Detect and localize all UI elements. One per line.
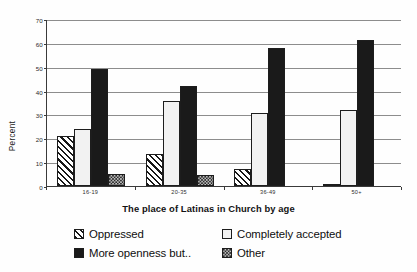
x-axis-tick-labels: 16-1920-3536-4950+ [46, 189, 401, 201]
legend-item: Oppressed [74, 228, 222, 240]
legend-swatch [222, 248, 232, 258]
y-axis-tick-label: 10 [36, 160, 43, 167]
bar [323, 184, 340, 186]
bar [357, 40, 374, 186]
legend-item: Other [222, 247, 342, 259]
y-axis-tick-label: 60 [36, 40, 43, 47]
bar [108, 174, 125, 186]
plot-area: 010203040506070 [46, 20, 401, 187]
x-axis-tick-label: 20-35 [135, 189, 224, 201]
y-axis-tick-label: 0 [39, 184, 43, 191]
legend-label: Oppressed [89, 228, 144, 240]
bar [340, 110, 357, 186]
legend-item: Completely accepted [222, 228, 342, 240]
bar [268, 48, 285, 186]
bar [74, 129, 91, 186]
legend-label: Completely accepted [237, 228, 341, 240]
y-axis-tick-label: 50 [36, 64, 43, 71]
bar-group [224, 20, 313, 186]
legend-label: More openness but.. [89, 247, 191, 259]
legend-item: More openness but.. [74, 247, 222, 259]
bar-groups [47, 20, 401, 186]
bar [146, 154, 163, 186]
legend-swatch [74, 229, 84, 239]
bar [163, 101, 180, 186]
bar-group [313, 20, 402, 186]
bar [197, 175, 214, 186]
legend-swatch [222, 229, 232, 239]
bar-group [47, 20, 136, 186]
y-axis-tick-label: 30 [36, 112, 43, 119]
x-axis-tick-label: 16-19 [46, 189, 135, 201]
x-axis-tick-label: 36-49 [224, 189, 313, 201]
y-axis-title: Percent [8, 121, 17, 151]
y-axis-tick-label: 70 [36, 17, 43, 24]
bar [234, 169, 251, 186]
chart-legend: OppressedCompletely acceptedMore opennes… [74, 224, 342, 262]
bar [251, 113, 268, 186]
y-axis-tick-label: 20 [36, 136, 43, 143]
y-axis-tick-label: 40 [36, 88, 43, 95]
bar-group [136, 20, 225, 186]
legend-swatch [74, 248, 84, 258]
bar [91, 69, 108, 186]
bar [180, 86, 197, 186]
bar-chart: Percent 010203040506070 16-1920-3536-495… [0, 0, 417, 272]
bar [57, 136, 74, 186]
legend-label: Other [237, 247, 265, 259]
x-axis-tick-mark [401, 187, 402, 190]
x-axis-tick-label: 50+ [312, 189, 401, 201]
x-axis-title: The place of Latinas in Church by age [0, 203, 417, 214]
